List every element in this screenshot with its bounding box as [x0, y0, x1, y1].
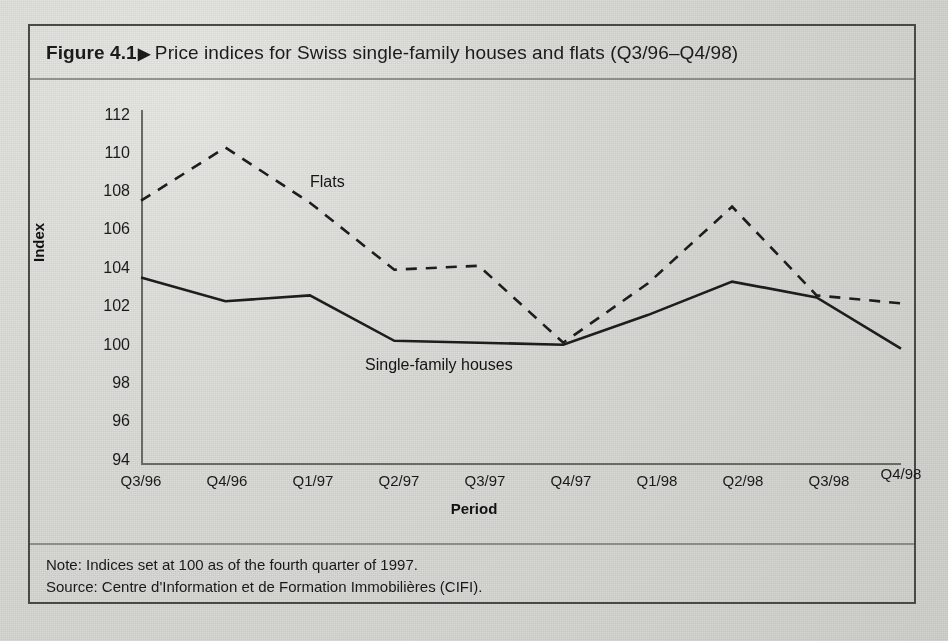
x-tick-q3-97: Q3/97: [441, 472, 529, 489]
x-axis-title: Period: [0, 500, 948, 517]
y-tick-102: 102: [70, 297, 130, 315]
y-tick-112: 112: [70, 106, 130, 124]
x-tick-q1-98: Q1/98: [613, 472, 701, 489]
y-tick-104: 104: [70, 259, 130, 277]
y-tick-106: 106: [70, 220, 130, 238]
x-tick-q3-96: Q3/96: [97, 472, 185, 489]
figure-note: Note: Indices set at 100 as of the fourt…: [46, 556, 418, 573]
y-tick-96: 96: [70, 412, 130, 430]
figure-source: Source: Centre d'Information et de Forma…: [46, 578, 482, 595]
y-tick-110: 110: [70, 144, 130, 162]
x-tick-q1-97: Q1/97: [269, 472, 357, 489]
plot-axes-frame: [141, 110, 901, 465]
y-tick-100: 100: [70, 336, 130, 354]
series-annotation-flats: Flats: [310, 173, 345, 191]
x-tick-q2-98: Q2/98: [699, 472, 787, 489]
y-tick-98: 98: [70, 374, 130, 392]
y-tick-94: 94: [70, 451, 130, 469]
series-annotation-single-family-houses: Single-family houses: [365, 356, 513, 374]
x-tick-q4-97: Q4/97: [527, 472, 615, 489]
x-tick-q4-96: Q4/96: [183, 472, 271, 489]
x-tick-q2-97: Q2/97: [355, 472, 443, 489]
note-divider: [30, 543, 914, 545]
x-tick-q4-98: Q4/98: [857, 465, 945, 482]
y-tick-108: 108: [70, 182, 130, 200]
y-axis-title: Index: [30, 223, 47, 262]
